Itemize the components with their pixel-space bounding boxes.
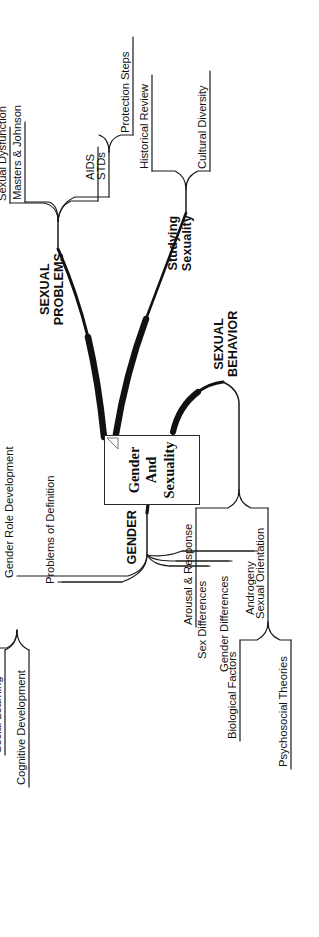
branch-label-sexual-problems[interactable]: SEXUAL PROBLEMS — [38, 253, 66, 325]
link-sp-sexual-dysfunction — [10, 203, 58, 221]
leaf-cognitive-development[interactable]: Cognitive Development — [16, 670, 27, 785]
link-sb-arousal-response — [196, 490, 239, 508]
leaf-historical-review-text: Historical Review — [138, 84, 150, 169]
mind-map-rotator: Gender And Sexuality GENDER SEXUAL BEHAV… — [0, 0, 319, 937]
link-gender-androgeny — [147, 551, 254, 556]
branch-label-studying-sexuality[interactable]: Studying Sexuality — [166, 215, 194, 271]
branch-label-sexual-behavior[interactable]: SEXUAL BEHAVIOR — [212, 311, 240, 377]
link-grd-social-learning — [5, 630, 17, 650]
link-ss-cultural-diversity — [186, 171, 210, 189]
leaf-problems-of-definition-text: Problems of Definition — [44, 476, 56, 584]
leaf-arousal-response-text: Arousal & Response — [182, 524, 194, 625]
leaf-stds-text: STDs — [95, 152, 107, 180]
center-topic-title-line1: Gender And — [126, 447, 159, 494]
leaf-historical-review[interactable]: Historical Review — [139, 84, 150, 169]
branch-label-sexual-behavior-line1: SEXUAL — [212, 318, 226, 370]
leaf-psychosocial-theories-text: Psychosocial Theories — [277, 656, 289, 767]
leaf-social-learning-text: Social Learning — [0, 677, 3, 753]
link-ss-historical-review — [152, 171, 186, 189]
branch-label-gender[interactable]: GENDER — [125, 510, 139, 564]
trunk-sexual-behavior — [173, 392, 198, 432]
leaf-social-learning[interactable]: Social Learning — [0, 677, 3, 753]
link-stds-fork-upper — [99, 135, 109, 152]
branch-label-gender-text: GENDER — [125, 510, 139, 564]
branch-label-studying-sexuality-line2: Sexuality — [180, 215, 194, 271]
branch-label-sexual-problems-line2: PROBLEMS — [52, 253, 66, 325]
leaf-sex-differences-text: Sex Differences — [196, 581, 208, 659]
link-grd-cognitive-development — [17, 630, 29, 650]
link-sp-masters-johnson — [25, 202, 58, 221]
center-topic-box[interactable]: Gender And Sexuality — [104, 435, 200, 505]
leaf-stds[interactable]: STDs — [96, 152, 107, 180]
leaf-gender-role-development[interactable]: Gender Role Development — [4, 447, 15, 578]
leaf-psychosocial-theories[interactable]: Psychosocial Theories — [278, 656, 289, 767]
branch-label-sexual-problems-line1: SEXUAL — [38, 263, 52, 315]
trunk-studying-sexuality — [116, 319, 146, 434]
link-sb-sexual-orientation — [239, 490, 268, 508]
leaf-cultural-diversity-text: Cultural Diversity — [196, 85, 208, 169]
link-so-biological-factors — [240, 622, 268, 640]
leaf-masters-johnson[interactable]: Masters & Johnson — [12, 105, 23, 200]
trunk-sexual-problems — [88, 337, 104, 437]
center-topic-title: Gender And Sexuality — [126, 436, 177, 504]
leaf-protection-steps[interactable]: Protection Steps — [120, 52, 131, 133]
leaf-arousal-response[interactable]: Arousal & Response — [183, 524, 194, 625]
leaf-biological-factors[interactable]: Biological Factors — [227, 652, 238, 739]
leaf-gender-role-development-text: Gender Role Development — [3, 447, 15, 578]
link-so-psychosocial-theories — [268, 622, 291, 640]
leaf-sexual-orientation-text: Sexual Orientation — [254, 528, 266, 619]
leaf-protection-steps-text: Protection Steps — [119, 52, 131, 133]
link-stds-protection-steps — [109, 135, 133, 152]
node-gender-role-development-fork — [0, 630, 17, 648]
leaf-sexual-dysfunction-text: Sexual Dysfunction — [0, 106, 8, 201]
leaf-cultural-diversity[interactable]: Cultural Diversity — [197, 85, 208, 169]
leaf-sex-differences[interactable]: Sex Differences — [197, 581, 208, 659]
link-sp-aids — [58, 201, 98, 221]
branch-label-studying-sexuality-line1: Studying — [166, 216, 180, 271]
mind-map-canvas: Gender And Sexuality GENDER SEXUAL BEHAV… — [0, 0, 319, 937]
leaf-sexual-orientation[interactable]: Sexual Orientation — [255, 528, 266, 619]
leaf-sexual-dysfunction[interactable]: Sexual Dysfunction — [0, 106, 8, 201]
leaf-masters-johnson-text: Masters & Johnson — [11, 105, 23, 200]
leaf-problems-of-definition[interactable]: Problems of Definition — [45, 476, 56, 584]
leaf-biological-factors-text: Biological Factors — [226, 652, 238, 739]
dog-ear-icon — [106, 437, 119, 450]
trunk-sexual-behavior-taper — [198, 382, 223, 392]
leaf-cognitive-development-text: Cognitive Development — [15, 670, 27, 785]
branch-label-sexual-behavior-line2: BEHAVIOR — [226, 311, 240, 377]
center-topic-title-line2: Sexuality — [161, 441, 177, 498]
spine-sexual-behavior — [223, 382, 239, 490]
